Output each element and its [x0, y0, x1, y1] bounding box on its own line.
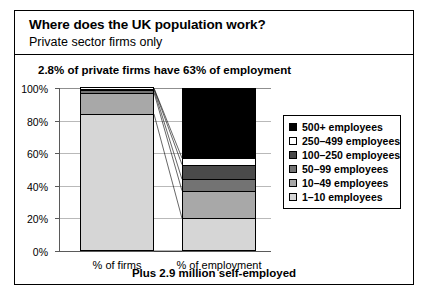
legend-label-250-499: 250–499 employees: [302, 135, 400, 147]
ytick-40: 40%: [55, 186, 60, 187]
ytick-label-60: 60%: [27, 148, 48, 160]
connector-line: [154, 114, 182, 218]
ytick-80: 80%: [55, 121, 60, 122]
legend-swatch-500-plus: [289, 123, 297, 131]
legend-label-50-99: 50–99 employees: [302, 163, 388, 175]
bar-segment: [182, 165, 256, 180]
bar-segment: [80, 90, 154, 93]
ytick-60: 60%: [55, 153, 60, 154]
stacked-bar-employment: [182, 88, 256, 251]
legend-swatch-10-49: [289, 179, 297, 187]
legend-item: 50–99 employees: [289, 162, 396, 176]
ytick-label-40: 40%: [27, 181, 48, 193]
ytick-100: 100%: [55, 88, 60, 89]
legend-label-1-10: 1–10 employees: [302, 191, 383, 203]
plot-area: 100% 80% 60% 40% 20% 0%: [59, 88, 271, 252]
legend-swatch-250-499: [289, 137, 297, 145]
bar-segment: [182, 218, 256, 251]
stacked-bar-firms: [80, 88, 154, 251]
bar-segment: [182, 191, 256, 219]
ytick-20: 20%: [55, 218, 60, 219]
legend-label-500-plus: 500+ employees: [302, 121, 383, 133]
legend-swatch-50-99: [289, 165, 297, 173]
connector-line: [154, 93, 182, 191]
page-subtitle: Private sector firms only: [29, 34, 413, 50]
legend-label-10-49: 10–49 employees: [302, 177, 388, 189]
page-title: Where does the UK population work?: [29, 17, 413, 33]
chart-figure: Where does the UK population work? Priva…: [14, 10, 414, 285]
chart-panel: 2.8% of private firms have 63% of employ…: [15, 55, 413, 284]
bar-segment: [182, 179, 256, 190]
legend-item: 1–10 employees: [289, 190, 396, 204]
chart-legend: 500+ employees 250–499 employees 100–250…: [283, 115, 401, 209]
legend-item: 10–49 employees: [289, 176, 396, 190]
bar-segment: [80, 87, 154, 88]
ytick-label-80: 80%: [27, 116, 48, 128]
bar-segment: [80, 93, 154, 115]
ytick-label-0: 0%: [33, 246, 48, 258]
ytick-label-20: 20%: [27, 213, 48, 225]
bar-segment: [80, 89, 154, 90]
bar-segment: [182, 158, 256, 165]
chart-header: Where does the UK population work? Priva…: [15, 11, 413, 55]
ytick-0: 0%: [55, 251, 60, 252]
bar-segment: [80, 114, 154, 251]
legend-label-100-250: 100–250 employees: [302, 149, 400, 161]
legend-item: 250–499 employees: [289, 134, 396, 148]
legend-swatch-1-10: [289, 193, 297, 201]
bar-segment: [182, 88, 256, 158]
legend-swatch-100-250: [289, 151, 297, 159]
chart-footnote: Plus 2.9 million self-employed: [15, 267, 413, 279]
legend-item: 100–250 employees: [289, 148, 396, 162]
ytick-label-100: 100%: [21, 83, 48, 95]
legend-item: 500+ employees: [289, 120, 396, 134]
connector-line: [154, 90, 182, 179]
chart-annotation: 2.8% of private firms have 63% of employ…: [38, 64, 291, 76]
connector-line: [154, 88, 182, 158]
